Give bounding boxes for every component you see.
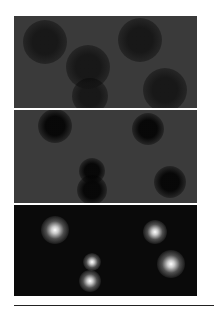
dark-spot (154, 166, 186, 198)
bright-spot (79, 270, 101, 292)
dark-spot (118, 18, 162, 62)
dark-spot (77, 175, 107, 203)
horizontal-rule (14, 305, 214, 306)
bright-spot (41, 216, 69, 244)
dark-spot (72, 78, 108, 108)
micrograph-panel-3 (14, 205, 197, 296)
bright-spot (157, 250, 185, 278)
bright-spot (83, 253, 101, 271)
dark-spot (143, 68, 187, 108)
dark-spot (132, 113, 164, 145)
bright-spot (143, 220, 167, 244)
dark-spot (23, 20, 67, 64)
dark-spot (38, 110, 72, 143)
micrograph-panel-1 (14, 16, 197, 108)
micrograph-panel-2 (14, 110, 197, 203)
